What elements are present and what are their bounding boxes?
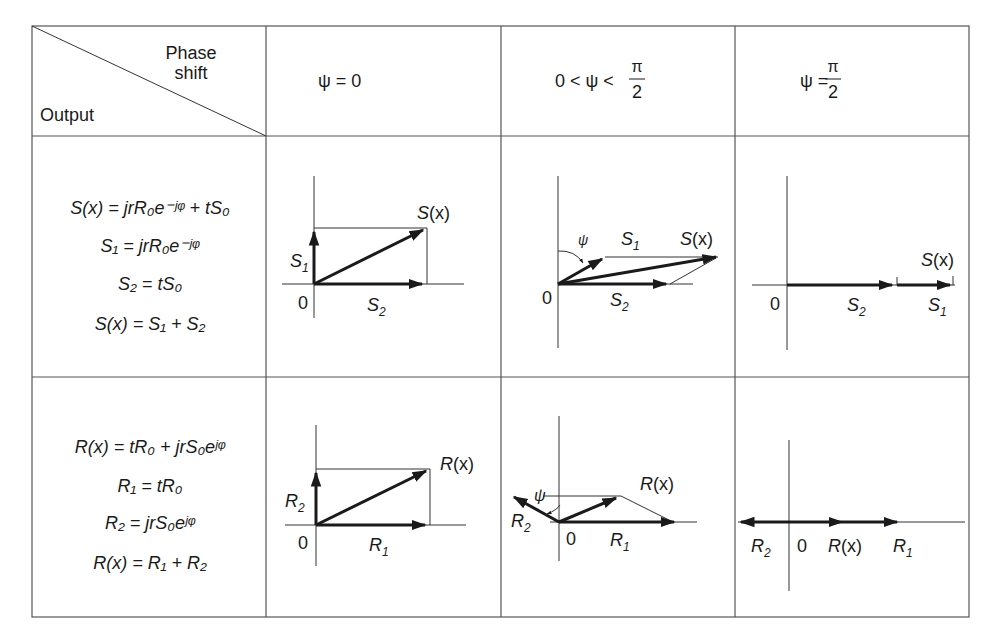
row-s-equations: S(x) = jrR₀e⁻ʲᵠ + tS₀ S₁ = jrR₀e⁻ʲᵠ S₂ =… (70, 198, 230, 334)
equation: R(x) = tR₀ + jrS₀eʲᵠ (75, 437, 226, 457)
equation: S₁ = jrR₀e⁻ʲᵠ (101, 236, 201, 256)
label-origin: 0 (566, 529, 576, 549)
label-rx: R(x) (440, 454, 474, 474)
label-s1: S1 (621, 229, 640, 253)
label-s1: S1 (928, 295, 947, 319)
header-col-psi-between: 0 < ψ < (555, 71, 614, 91)
label-origin: 0 (797, 536, 807, 556)
label-sx: S(x) (417, 203, 450, 223)
label-origin: 0 (770, 294, 780, 314)
phasor-diagram-s-psi-half-pi: S(x) 0 S2 S1 (752, 176, 955, 350)
phasor-diagram-r-psi-half-pi: R2 0 R(x) R1 (738, 440, 965, 591)
label-origin: 0 (298, 293, 308, 313)
label-r2: R2 (511, 511, 531, 535)
header-col-psi-zero: ψ = 0 (318, 71, 361, 91)
header-phase-label: Phase (165, 43, 216, 63)
label-s1: S1 (290, 251, 309, 275)
label-r1: R1 (610, 530, 630, 554)
row-r-equations: R(x) = tR₀ + jrS₀eʲᵠ R₁ = tR₀ R₂ = jrS₀e… (75, 437, 226, 573)
header-shift-label: shift (174, 63, 207, 83)
frac-num: π (631, 58, 642, 75)
equation: S(x) = jrR₀e⁻ʲᵠ + tS₀ (70, 198, 230, 218)
header-output-label: Output (40, 105, 94, 125)
frac-den: 2 (828, 82, 838, 102)
label-sx: S(x) (921, 250, 954, 270)
phasor-diagram-r-psi0: R(x) R2 0 R1 (285, 425, 474, 566)
equation: R₂ = jrS₀eʲᵠ (105, 513, 196, 533)
phasor-diagram-r-psi-between: ψ R(x) R2 0 R1 (511, 416, 697, 561)
table-header: Phase shift Output ψ = 0 0 < ψ < π 2 ψ =… (40, 43, 841, 125)
equation: S₂ = tS₀ (118, 274, 182, 294)
label-r1: R1 (369, 535, 389, 559)
phasor-diagram-s-psi0: S(x) S1 0 S2 (282, 176, 464, 319)
label-psi: ψ (578, 232, 588, 248)
header-col-psi-half-pi: ψ = (800, 71, 828, 91)
label-origin: 0 (542, 288, 552, 308)
equation: S(x) = S₁ + S₂ (95, 314, 206, 334)
label-rx: R(x) (640, 474, 674, 494)
vector-sx (314, 230, 423, 284)
label-s2: S2 (610, 290, 629, 314)
vector-rx-part (559, 498, 616, 522)
label-r2: R2 (751, 536, 771, 560)
equation: R₁ = tR₀ (118, 476, 183, 496)
label-origin: 0 (298, 533, 308, 553)
label-r2: R2 (285, 491, 305, 515)
label-s2: S2 (367, 295, 386, 319)
equation: R(x) = R₁ + R₂ (93, 553, 207, 573)
phasor-table: Phase shift Output ψ = 0 0 < ψ < π 2 ψ =… (0, 0, 1000, 644)
label-rx: R(x) (828, 536, 862, 556)
label-sx: S(x) (680, 229, 713, 249)
label-r1: R1 (893, 536, 913, 560)
label-psi: ψ (534, 487, 546, 504)
vector-rx (316, 471, 426, 525)
frac-num: π (827, 58, 838, 75)
frac-den: 2 (632, 82, 642, 102)
label-s2: S2 (847, 295, 866, 319)
phasor-diagram-s-psi-between: ψ S1 S(x) 0 S2 (542, 176, 718, 348)
